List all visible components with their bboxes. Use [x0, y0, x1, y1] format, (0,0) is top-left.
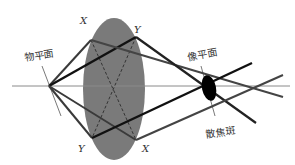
x-top-label: X: [79, 15, 88, 26]
blur-spot-label: 散焦斑: [204, 124, 235, 140]
image-plane-label: 像平面: [186, 46, 217, 62]
object-plane-label: 物平面: [23, 47, 54, 63]
y-bottom-label: Y: [78, 143, 86, 154]
y-top-label: Y: [134, 24, 142, 35]
defocus-optics-diagram: 物平面 像平面 散焦斑 X Y Y X: [0, 0, 295, 165]
blur-spot: [199, 74, 218, 102]
x-bottom-label: X: [141, 143, 150, 154]
